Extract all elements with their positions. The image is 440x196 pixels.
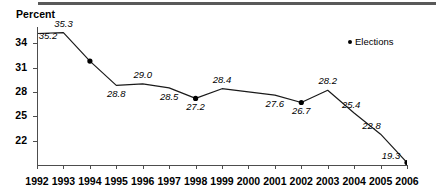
y-tick-mark bbox=[33, 92, 37, 93]
y-tick-mark bbox=[33, 43, 37, 44]
x-tick-mark bbox=[407, 165, 408, 169]
data-point-label: 28.5 bbox=[154, 91, 184, 102]
legend: Elections bbox=[348, 36, 394, 47]
legend-label: Elections bbox=[355, 36, 394, 47]
x-tick-mark bbox=[275, 165, 276, 169]
x-tick-mark bbox=[90, 165, 91, 169]
plot-area bbox=[37, 27, 407, 166]
x-tick-mark bbox=[328, 165, 329, 169]
data-point-label: 22.8 bbox=[357, 120, 387, 131]
y-tick-mark bbox=[33, 68, 37, 69]
y-tick-mark bbox=[33, 141, 37, 142]
x-tick-mark bbox=[37, 165, 38, 169]
chart-page: Percent 3431282522 199219931994199519961… bbox=[0, 0, 440, 196]
data-point-marker bbox=[193, 96, 198, 101]
x-tick-mark bbox=[143, 165, 144, 169]
x-tick-mark bbox=[116, 165, 117, 169]
dot-icon bbox=[348, 40, 352, 44]
x-tick-mark bbox=[301, 165, 302, 169]
data-point-label: 19.3 bbox=[376, 150, 406, 161]
line-series-elections bbox=[37, 27, 407, 166]
data-point-label: 28.4 bbox=[207, 74, 237, 85]
data-point-label: 28.2 bbox=[313, 75, 343, 86]
x-tick-mark bbox=[381, 165, 382, 169]
data-point-label: 35.2 bbox=[33, 30, 63, 41]
data-point-marker bbox=[299, 100, 304, 105]
y-tick-label: 22 bbox=[5, 134, 27, 146]
header-divider bbox=[38, 2, 436, 5]
x-tick-mark bbox=[63, 165, 64, 169]
x-tick-label: 2006 bbox=[390, 175, 424, 187]
data-point-label: 35.3 bbox=[48, 18, 78, 29]
x-tick-mark bbox=[354, 165, 355, 169]
y-tick-label: 34 bbox=[5, 36, 27, 48]
y-tick-mark bbox=[33, 116, 37, 117]
x-tick-mark bbox=[196, 165, 197, 169]
y-tick-label: 31 bbox=[5, 61, 27, 73]
data-point-label: 25.4 bbox=[336, 99, 366, 110]
data-point-label: 29.0 bbox=[128, 69, 158, 80]
data-point-marker bbox=[87, 59, 92, 64]
data-point-label: 27.2 bbox=[181, 101, 211, 112]
x-tick-mark bbox=[169, 165, 170, 169]
x-tick-mark bbox=[248, 165, 249, 169]
x-tick-mark bbox=[222, 165, 223, 169]
y-axis-line bbox=[37, 27, 38, 166]
data-point-label: 28.8 bbox=[101, 88, 131, 99]
data-point-label: 26.7 bbox=[286, 105, 316, 116]
y-tick-label: 25 bbox=[5, 109, 27, 121]
y-tick-label: 28 bbox=[5, 85, 27, 97]
